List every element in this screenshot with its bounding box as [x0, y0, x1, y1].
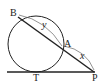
point-label-b: B [10, 7, 17, 18]
length-arc-y [19, 15, 62, 46]
length-arc-x [64, 46, 94, 70]
segment-label-y: y [41, 19, 47, 30]
point-label-t: T [33, 72, 39, 83]
segment-label-x: x [79, 50, 85, 61]
point-label-a: A [64, 38, 72, 49]
point-label-p: P [92, 72, 98, 83]
geometry-diagram: B A P T y x [0, 0, 102, 83]
